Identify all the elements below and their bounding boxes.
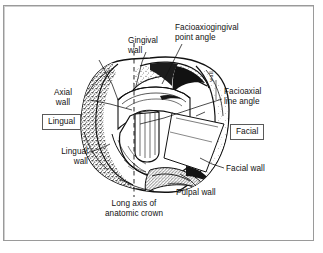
label-long-axis-anatomic-crown: Long axis of anatomic crown bbox=[86, 199, 182, 218]
label-gingival-wall: Gingival wall bbox=[128, 36, 174, 55]
orientation-label-lingual: Lingual bbox=[42, 114, 81, 130]
label-axial-wall: Axial wall bbox=[38, 88, 88, 107]
figure-root: wall Gingival bbox=[0, 0, 323, 253]
label-facioaxiogingival-point-angle: Facioaxiogingival point angle bbox=[175, 23, 257, 42]
label-facioaxial-line-angle: Facioaxial line angle bbox=[224, 87, 296, 106]
orientation-label-facial: Facial bbox=[230, 124, 264, 140]
label-facial-wall: Facial wall bbox=[226, 164, 288, 174]
label-lingual-wall: Lingual wall bbox=[30, 147, 88, 166]
svg-text:wall: wall bbox=[208, 71, 214, 82]
label-pulpal-wall: Pulpal wall bbox=[176, 188, 236, 198]
